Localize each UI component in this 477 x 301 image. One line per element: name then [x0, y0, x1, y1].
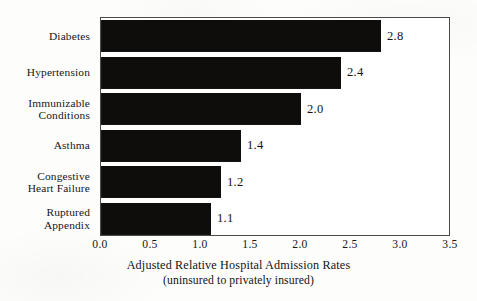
bar: [101, 130, 241, 162]
category-label: Hypertension: [0, 55, 95, 92]
category-label: CongestiveHeart Failure: [0, 164, 95, 201]
bar: [101, 166, 221, 198]
x-axis-title: Adjusted Relative Hospital Admission Rat…: [0, 258, 477, 288]
category-label: RupturedAppendix: [0, 201, 95, 238]
category-label: ImmunizableConditions: [0, 91, 95, 128]
x-tick-label: 2.0: [292, 238, 307, 252]
x-tick-label: 0.0: [92, 238, 107, 252]
category-label-line: Ruptured: [46, 206, 90, 219]
bar-value-label: 2.0: [307, 103, 324, 116]
x-axis-title-line1: Adjusted Relative Hospital Admission Rat…: [0, 258, 477, 273]
bar: [101, 203, 211, 235]
category-label-line: Diabetes: [49, 30, 90, 43]
x-tick-label: 3.0: [392, 238, 407, 252]
x-tick-label: 1.5: [242, 238, 257, 252]
bar-value-label: 1.2: [227, 176, 244, 189]
category-label: Asthma: [0, 128, 95, 165]
x-axis-title-line2: (uninsured to privately insured): [0, 273, 477, 288]
bar-value-label: 1.4: [247, 139, 264, 152]
category-label-line: Conditions: [38, 109, 90, 122]
plot-area: 2.82.42.01.41.21.1: [100, 17, 450, 236]
bar: [101, 93, 301, 125]
category-label-line: Asthma: [54, 139, 90, 152]
category-label-line: Congestive: [37, 170, 90, 183]
category-axis-labels: DiabetesHypertensionImmunizableCondition…: [0, 18, 95, 236]
chart-figure: DiabetesHypertensionImmunizableCondition…: [0, 0, 477, 301]
x-tick-label: 2.5: [342, 238, 357, 252]
category-label-line: Appendix: [44, 219, 90, 232]
bar: [101, 20, 381, 52]
category-label-line: Hypertension: [27, 66, 90, 79]
bar: [101, 57, 341, 89]
category-label-line: Heart Failure: [28, 182, 90, 195]
x-axis-tick-labels: 0.00.51.01.52.02.53.03.5: [100, 238, 450, 254]
bars-container: 2.82.42.01.41.21.1: [101, 18, 449, 235]
x-tick-label: 3.5: [442, 238, 457, 252]
bar-value-label: 2.4: [347, 66, 364, 79]
x-tick-label: 1.0: [192, 238, 207, 252]
bar-value-label: 2.8: [387, 30, 404, 43]
category-label: Diabetes: [0, 18, 95, 55]
x-tick-label: 0.5: [142, 238, 157, 252]
category-label-line: Immunizable: [28, 97, 90, 110]
bar-value-label: 1.1: [217, 212, 234, 225]
